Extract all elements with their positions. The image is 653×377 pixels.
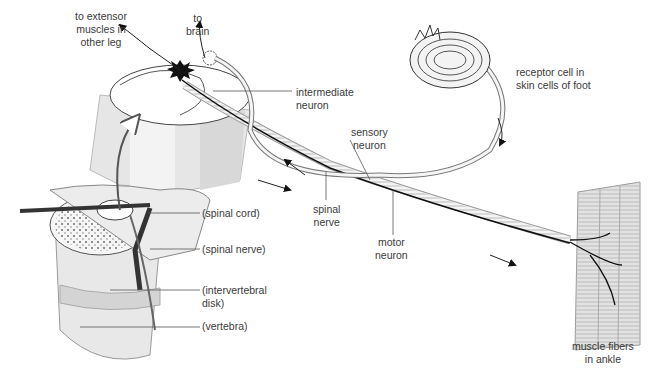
arrow-right-icon — [490, 255, 515, 265]
label-intervertebral-disk: (intervertebral disk) — [202, 284, 267, 310]
receptor-cell — [410, 25, 490, 88]
diagram-illustration — [0, 0, 653, 377]
label-intermediate-neuron: intermediate neuron — [296, 86, 354, 112]
label-to-extensor-muscles: to extensor muscles in other leg — [75, 10, 127, 49]
label-sensory-neuron: sensory neuron — [351, 126, 388, 152]
spinal-cord-segment — [90, 51, 250, 193]
arrow-right-icon — [258, 180, 290, 190]
reflex-arc-diagram: to extensor muscles in other leg to brai… — [0, 0, 653, 377]
label-spinal-nerve-small: (spinal nerve) — [202, 243, 266, 256]
muscle-fibers — [570, 182, 640, 350]
intermediate-neuron-body-icon — [203, 51, 217, 65]
label-vertebra: (vertebra) — [202, 320, 248, 333]
label-muscle-fibers: muscle fibers in ankle — [572, 340, 634, 366]
label-spinal-cord: (spinal cord) — [202, 207, 260, 220]
label-to-brain: to brain — [186, 12, 209, 38]
label-motor-neuron: motor neuron — [375, 236, 408, 262]
label-spinal-nerve: spinal nerve — [313, 203, 340, 229]
arrow-to-extensor-icon — [120, 25, 180, 70]
label-receptor-cell: receptor cell in skin cells of foot — [516, 66, 591, 92]
